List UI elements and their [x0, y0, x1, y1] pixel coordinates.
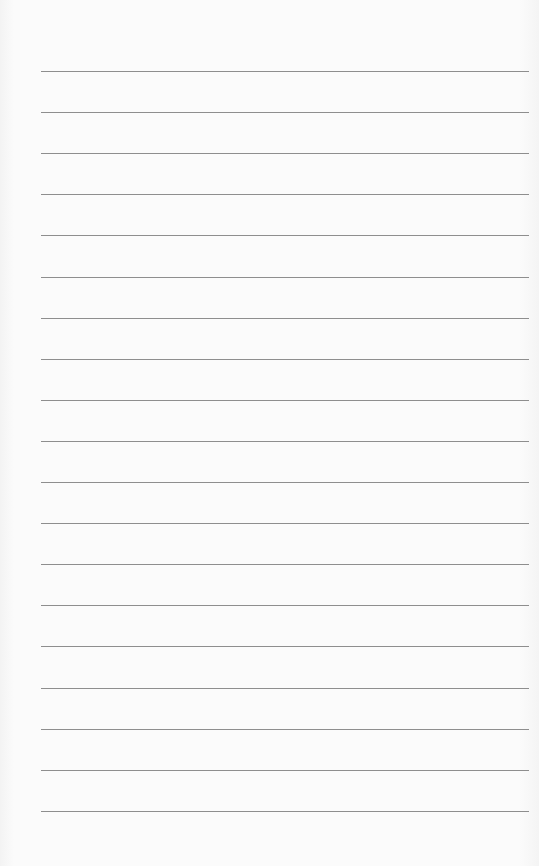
ruled-line — [41, 441, 529, 442]
ruled-line — [41, 482, 529, 483]
ruled-line — [41, 688, 529, 689]
ruled-line — [41, 811, 529, 812]
ruled-line — [41, 646, 529, 647]
ruled-line — [41, 318, 529, 319]
ruled-line — [41, 605, 529, 606]
ruled-line — [41, 564, 529, 565]
ruled-line — [41, 194, 529, 195]
ruled-line — [41, 359, 529, 360]
ruled-line — [41, 153, 529, 154]
ruled-line — [41, 400, 529, 401]
ruled-line — [41, 770, 529, 771]
ruled-line — [41, 235, 529, 236]
ruled-line — [41, 523, 529, 524]
ruled-line — [41, 277, 529, 278]
ruled-line — [41, 112, 529, 113]
ruled-line — [41, 729, 529, 730]
lined-paper-sheet — [0, 0, 539, 866]
ruled-line — [41, 71, 529, 72]
